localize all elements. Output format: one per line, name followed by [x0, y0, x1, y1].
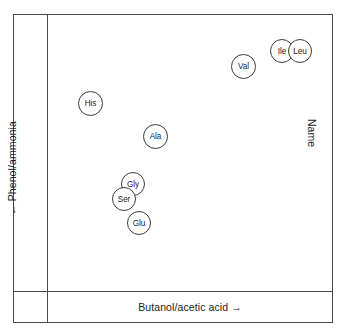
marker-his: His [78, 91, 103, 116]
marker-leu: Leu [288, 39, 312, 63]
y-axis-label: ← Phenol/ammonia [0, 96, 24, 240]
marker-glu: Glu [127, 211, 151, 235]
x-axis-label: Butanol/acetic acid → [48, 292, 332, 322]
chromatogram-figure: ← Phenol/ammonia Butanol/acetic acid → N… [0, 0, 349, 336]
marker-val: Val [231, 54, 256, 79]
marker-ala: Ala [143, 124, 168, 149]
figure-border-top [13, 14, 333, 15]
marker-ser: Ser [112, 187, 136, 211]
figure-border-bottom [13, 322, 333, 323]
y-axis-gutter-divider [47, 14, 48, 323]
figure-border-right [332, 14, 333, 323]
legend-title: Name [304, 83, 320, 183]
